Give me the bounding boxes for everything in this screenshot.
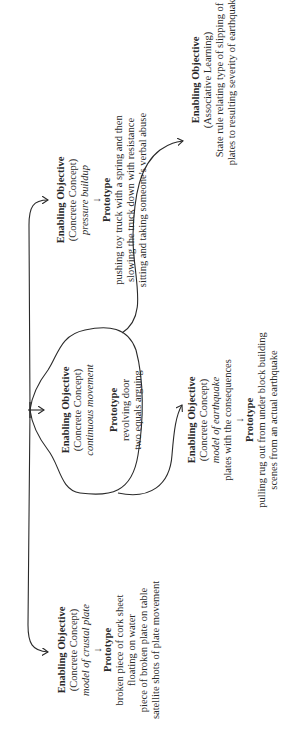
prototype-line: scenes from an actual earthquake [268,320,280,520]
prototype-line: floating on water [126,565,138,735]
node-earthquake-model: Enabling Objective (Concrete Concept) mo… [186,320,280,520]
enabling-objective-title: Enabling Objective [186,320,198,520]
enabling-objective-title: Enabling Objective [60,340,72,480]
trunk-to-pressure-buildup [29,200,48,410]
enabling-objective-title: Enabling Objective [190,0,202,175]
prototype-title: Prototype [244,320,256,520]
prototype-line: two equals arguing [132,340,144,480]
prototype-line: sitting and taking someone's verbal abus… [137,100,149,300]
node-crustal-plate: Enabling Objective (Concrete Concept) mo… [56,565,162,735]
down-arrow-icon: ↓ [92,565,102,735]
prototype-title: Prototype [102,565,114,735]
prototype-line: piece of broken plate on table [138,565,150,735]
objective-concept: model of earthquake [210,320,222,520]
objective-type: (Concrete Concept) [67,100,79,300]
spacer [96,340,108,480]
objective-type: (Associative Learning) [202,0,214,175]
prototype-line: pulling rug out from under block buildin… [256,320,268,520]
objective-type: (Concrete Concept) [72,340,84,480]
prototype-line: pushing toy truck with a spring and then [113,100,125,300]
prototype-line: revolving door [120,340,132,480]
prototype-line: broken piece of cork sheet [114,565,126,735]
enabling-objective-title: Enabling Objective [55,100,67,300]
node-associative-learning: Enabling Objective (Associative Learning… [190,0,238,175]
enabling-objective-title: Enabling Objective [56,565,68,735]
node-continuous-movement: Enabling Objective (Concrete Concept) co… [60,340,144,480]
node-pressure-buildup: Enabling Objective (Concrete Concept) pr… [55,100,149,300]
down-arrow-icon: ↓ [91,100,101,300]
objective-type: (Concrete Concept) [68,565,80,735]
prototype-line: satellite shots of plate movement [150,565,162,735]
objective-description: State rule relating type of slipping of [214,0,226,175]
prototype-line: slowing the truck down with resistance [125,100,137,300]
prototype-title: Prototype [101,100,113,300]
prototype-title: Prototype [108,340,120,480]
objective-type: (Concrete Concept) [198,320,210,520]
rotated-diagram: Enabling Objective (Concrete Concept) mo… [0,0,296,755]
down-arrow-icon: ↓ [234,320,244,520]
objective-description: plates to resulting severity of earthqua… [226,0,238,175]
objective-concept: continuous movement [84,340,96,480]
